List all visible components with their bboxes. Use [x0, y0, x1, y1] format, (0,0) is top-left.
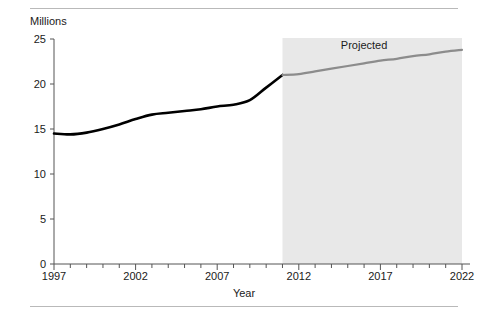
projected-region-annotation: Projected [341, 39, 387, 51]
y-axis-tick-label: 10 [0, 168, 46, 180]
y-axis-tick-label: 15 [0, 123, 46, 135]
plot-area [0, 0, 488, 318]
x-axis-tick-label: 2017 [368, 270, 392, 282]
x-axis-tick-label: 2007 [205, 270, 229, 282]
y-axis-tick-label: 25 [0, 33, 46, 45]
x-axis-tick-label: 1997 [42, 270, 66, 282]
y-axis-tick-label: 0 [0, 258, 46, 270]
y-axis-tick-label: 5 [0, 213, 46, 225]
actual-line-series [54, 75, 282, 134]
x-axis-tick-label: 2022 [450, 270, 474, 282]
x-axis-tick-label: 2012 [287, 270, 311, 282]
x-axis-title: Year [0, 287, 488, 299]
chart-figure: Millions 0510152025 19972002200720122017… [0, 0, 488, 318]
x-axis-tick-label: 2002 [123, 270, 147, 282]
y-axis-tick-label: 20 [0, 78, 46, 90]
